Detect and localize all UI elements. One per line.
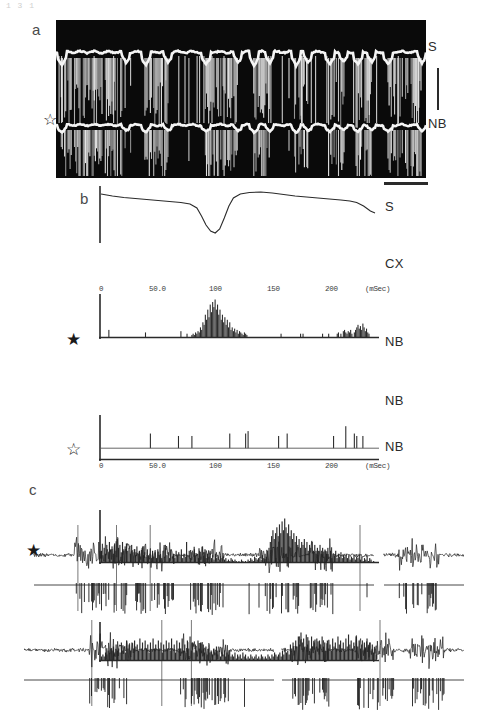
axis1-tick-150: 150 (267, 285, 280, 293)
panel-b-label-nb-1: NB (385, 335, 404, 348)
panel-a-vertical-scale-bar (437, 68, 439, 110)
axis2-tick-100: 100 (209, 462, 222, 470)
panel-c-recordings (24, 495, 464, 710)
panel-a-label-s: S (428, 40, 437, 53)
panel-a-svg (56, 20, 426, 178)
panel-b-open-star-marker: ☆ (66, 441, 81, 458)
panel-b-label-cx: CX (385, 257, 404, 270)
figure-root: 1 3 1 a ☆ S NB b S CX (0, 0, 477, 714)
panel-b-label-nb-2: NB (385, 394, 404, 407)
panel-a-horizontal-scale-bar (384, 182, 428, 185)
panel-b-s-line (101, 192, 375, 233)
panel-a-label-nb: NB (428, 117, 447, 130)
panel-b-cx-svg (99, 294, 379, 339)
panel-b-axis-bottom: 0 50.0 100 150 200 (mSec) (99, 459, 389, 475)
panel-b-s-svg (99, 186, 379, 243)
panel-b-row-nb-1 (99, 415, 379, 461)
axis2-unit-label: (mSec) (365, 462, 390, 470)
panel-b-cx-bars (108, 300, 369, 338)
axis1-tick-200: 200 (325, 285, 338, 293)
axis2-tick-50: 50.0 (149, 462, 166, 470)
axis2-tick-200: 200 (325, 462, 338, 470)
panel-c-unit-raster-row-2 (24, 678, 464, 710)
panel-b-row-s (99, 186, 379, 243)
axis1-tick-50: 50.0 (149, 285, 166, 293)
panel-b-label-nb-3: NB (385, 440, 404, 453)
axis1-tick-100: 100 (209, 285, 222, 293)
panel-a-oscilloscope (56, 20, 426, 178)
panel-c-svg (24, 495, 464, 710)
panel-letter-b: b (80, 190, 88, 207)
panel-b-row-cx (99, 294, 379, 339)
axis1-unit-label: (mSec) (365, 285, 390, 293)
axis1-tick-0: 0 (99, 285, 103, 293)
axis2-tick-150: 150 (267, 462, 280, 470)
panel-a-open-star-marker: ☆ (43, 112, 57, 128)
panel-b-axis-top: 0 50.0 100 150 200 (mSec) (99, 282, 389, 298)
axis2-tick-0: 0 (99, 462, 103, 470)
panel-b-label-s: S (385, 200, 394, 213)
panel-b-filled-star-marker: ★ (66, 331, 81, 348)
scan-artifact-text: 1 3 1 (6, 1, 35, 10)
panel-c-unit-raster-row-1 (34, 583, 464, 615)
panel-b-nb1-bars (150, 426, 364, 448)
panel-b-nb1-svg (99, 415, 379, 461)
panel-letter-a: a (32, 21, 40, 38)
